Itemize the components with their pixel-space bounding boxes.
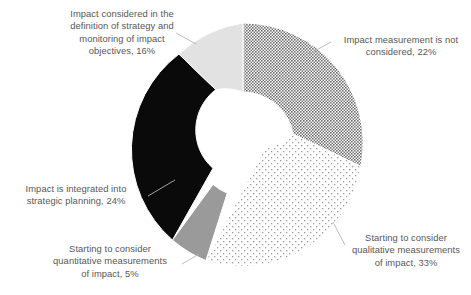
slice-label-quantitative-measurements: Starting to consider quantitative measur…: [34, 243, 186, 280]
donut-chart: Impact considered in the definition of s…: [0, 0, 471, 295]
slice-label-qualitative-measurements: Starting to consider qualitative measure…: [341, 232, 471, 269]
slice-label-impact-considered-in-strategy: Impact considered in the definition of s…: [42, 8, 202, 58]
slice-label-impact-measurement-not-considered: Impact measurement is not considered, 22…: [332, 34, 470, 59]
slice-label-impact-integrated-strategic-planning: Impact is integrated into strategic plan…: [8, 183, 144, 208]
donut-slices: [131, 23, 363, 266]
